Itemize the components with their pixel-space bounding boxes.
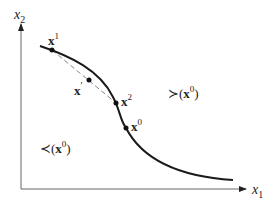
point-x1 [50,48,55,53]
point-x0 [124,126,129,131]
label-x0: x0 [131,117,143,134]
point-xprime [87,78,92,83]
label-x1: x1 [48,31,59,48]
indifference-curve-diagram: x2 x1 x1 x′ x2 x0 ≻(x0) ≺(x0) [0,0,278,201]
region-upper-label: ≻(x0) [168,84,199,101]
diagram-canvas: x2 x1 x1 x′ x2 x0 ≻(x0) ≺(x0) [0,0,278,201]
label-xprime: x′ [74,80,83,98]
point-x2 [114,101,119,106]
chord-dashed-line [52,50,116,103]
label-x2: x2 [121,92,132,109]
indifference-curve [40,46,233,180]
region-lower-label: ≺(x0) [40,139,71,156]
x-axis-label: x1 [251,182,263,200]
y-axis-label: x2 [13,7,25,25]
